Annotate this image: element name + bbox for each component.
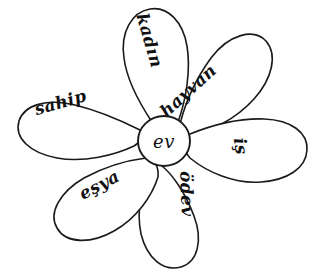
center-label: ev <box>153 131 175 152</box>
flower-diagram-canvas: kadın hayvan iş ödev eşya sahip ev <box>0 0 318 275</box>
center-group[interactable]: ev <box>138 116 190 166</box>
petal-label-odev: ödev <box>176 171 198 218</box>
word-web-diagram: kadın hayvan iş ödev eşya sahip ev <box>0 0 318 275</box>
petal-group-sahip[interactable]: sahip <box>18 85 142 159</box>
petal-label-is: iş <box>230 136 252 155</box>
petal-group-is[interactable]: iş <box>185 119 307 182</box>
